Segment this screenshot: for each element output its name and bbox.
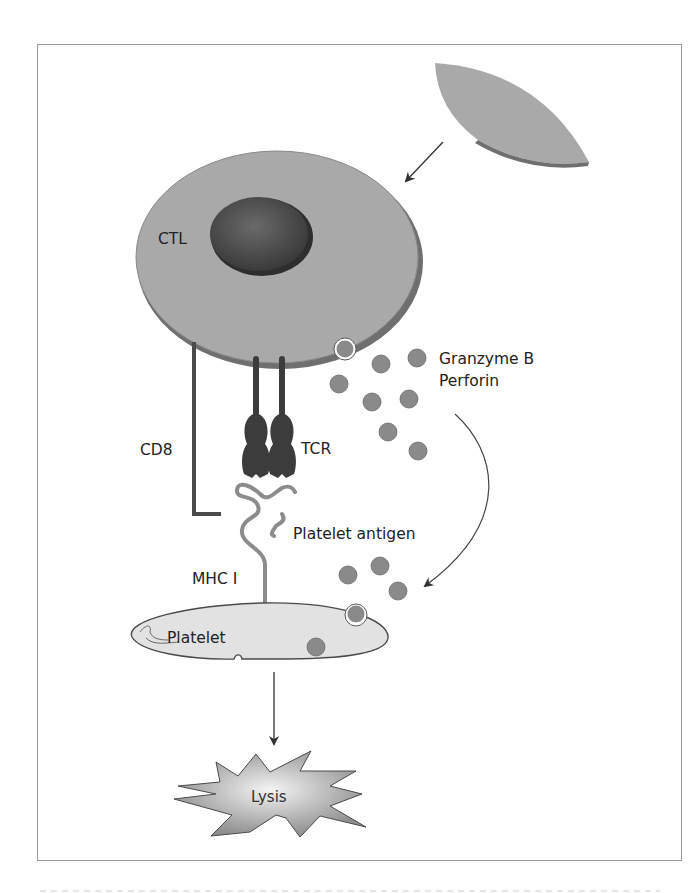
mhc-label: MHC I <box>192 570 237 588</box>
antigen-peptide <box>272 514 284 536</box>
ctl-platelet-lysis-diagram: CTL CD8 TCR Platelet antigen MHC I Granz… <box>0 0 699 893</box>
tcr-receptor <box>242 356 296 478</box>
platelet-antigen-label: Platelet antigen <box>293 525 416 543</box>
figure-caption-clipped <box>40 884 660 893</box>
perforin-label: Perforin <box>439 372 499 390</box>
platelet-label: Platelet <box>167 629 226 647</box>
granule-transfer-arrow-icon <box>425 414 489 586</box>
lysis-label: Lysis <box>251 788 287 806</box>
granule-vesicle-ctl <box>334 338 356 360</box>
activation-arrow-icon <box>406 142 443 181</box>
mhc-molecule <box>237 485 295 605</box>
granzyme-label: Granzyme B <box>439 350 534 368</box>
activating-signal-shape <box>435 63 589 168</box>
cd8-molecule <box>194 342 221 514</box>
tcr-label: TCR <box>300 440 331 458</box>
ctl-cell <box>136 151 423 369</box>
granzyme-perforin-granules <box>330 349 427 600</box>
cd8-label: CD8 <box>140 441 173 459</box>
ctl-label: CTL <box>158 230 187 248</box>
